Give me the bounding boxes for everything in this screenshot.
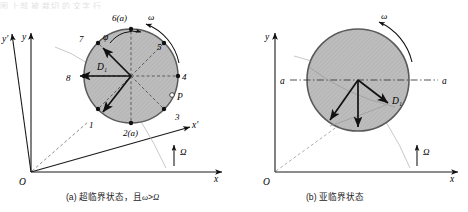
- caption-a-Omega: Ω: [153, 192, 159, 202]
- caption-b-prefix: (b): [306, 192, 317, 202]
- panel-b-y-label: y: [264, 32, 270, 42]
- panel-a-omega-label: ω: [148, 12, 154, 22]
- panel-a-y-label: y: [21, 32, 27, 42]
- panel-a-node-label-2: 2(a): [123, 128, 138, 138]
- panel-a-node-label-7: 7: [79, 34, 84, 44]
- panel-a-point-P-label: P: [176, 92, 183, 102]
- panel-a-node-label-1: 1: [89, 120, 94, 130]
- figure-svg: Ω φ: [0, 0, 468, 212]
- panel-a-node-label-4: 4: [182, 72, 187, 82]
- top-faded-text: 图 上部 被 裁切 的 文字 行: [0, 0, 468, 9]
- panel-b-x-label: x: [449, 174, 455, 184]
- caption-a-text: 超临界状态，且: [79, 192, 142, 202]
- panel-a-phi-label: φ: [103, 32, 108, 42]
- panel-a-y-prime-axis: [12, 34, 31, 172]
- panel-b: a a D₁ ω Ω y x O: [263, 11, 458, 187]
- panel-a-node-label-3: 3: [174, 112, 180, 122]
- caption-panel-a: (a) 超临界状态，且ω>Ω: [66, 190, 159, 202]
- panel-a-x-label: x: [213, 174, 219, 184]
- panel-a-origin-label: O: [19, 177, 26, 187]
- panel-b-omega-big-label: Ω: [423, 147, 430, 157]
- panel-b-dashed-O-to-disc: [276, 126, 338, 171]
- panel-a-x-prime-axis: [31, 127, 190, 172]
- panel-b-center-label: D₁: [391, 96, 402, 106]
- panel-a-node-label-6: 6(a): [112, 13, 127, 23]
- panel-a-omega-big-label: Ω: [180, 147, 187, 157]
- panel-a-point-P-marker: [170, 93, 175, 98]
- panel-b-omega-label: ω: [381, 11, 387, 21]
- caption-panel-b: (b) 亚临界状态: [306, 190, 364, 202]
- panel-b-axis-a-right-label: a: [442, 76, 447, 86]
- figure-container: 图 上部 被 裁切 的 文字 行: [0, 0, 468, 212]
- panel-b-axis-a-left-label: a: [280, 76, 285, 86]
- caption-b-text: 亚临界状态: [319, 192, 364, 202]
- panel-a-node-label-5: 5: [157, 42, 162, 52]
- panel-a: Ω φ: [1, 12, 222, 187]
- panel-a-x-prime-label: x': [191, 120, 199, 130]
- panel-a-y-prime-label: y': [1, 34, 9, 44]
- caption-a-prefix: (a): [66, 192, 77, 202]
- panel-a-node-label-8: 8: [66, 73, 71, 83]
- panel-b-origin-label: O: [263, 177, 270, 187]
- panel-a-center-label: D₁: [96, 62, 107, 72]
